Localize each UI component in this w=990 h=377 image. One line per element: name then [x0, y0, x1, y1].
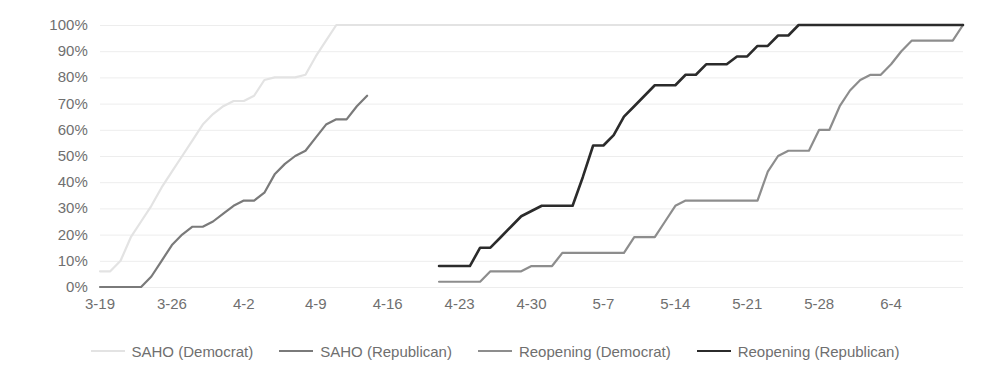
x-axis-tick-label: 5-7 [563, 295, 643, 312]
series-line [100, 96, 367, 287]
y-axis-tick-label: 70% [58, 95, 88, 112]
legend-item[interactable]: SAHO (Democrat) [91, 343, 254, 360]
legend-item[interactable]: Reopening (Democrat) [478, 343, 671, 360]
y-axis-tick-label: 10% [58, 252, 88, 269]
chart-plot-area [0, 0, 990, 377]
series-line [439, 25, 963, 266]
y-axis-tick-label: 60% [58, 121, 88, 138]
y-axis-tick-label: 80% [58, 68, 88, 85]
x-axis-tick-label: 5-14 [635, 295, 715, 312]
y-axis-tick-label: 90% [58, 42, 88, 59]
y-axis-tick-label: 20% [58, 226, 88, 243]
x-axis-tick-label: 6-4 [851, 295, 931, 312]
legend-line-swatch [279, 350, 313, 352]
chart-legend: SAHO (Democrat)SAHO (Republican)Reopenin… [0, 336, 990, 366]
legend-line-swatch [478, 350, 512, 352]
x-axis-tick-label: 4-23 [420, 295, 500, 312]
gridlines [100, 26, 963, 288]
series-line [100, 25, 963, 271]
legend-label: SAHO (Republican) [320, 343, 452, 360]
y-axis-tick-label: 50% [58, 147, 88, 164]
x-axis-tick-label: 4-9 [276, 295, 356, 312]
series-line [439, 25, 963, 282]
legend-label: Reopening (Democrat) [519, 343, 671, 360]
y-axis-tick-label: 0% [66, 278, 88, 295]
legend-item[interactable]: SAHO (Republican) [279, 343, 452, 360]
y-axis-tick-label: 30% [58, 199, 88, 216]
x-axis-tick-label: 3-26 [132, 295, 212, 312]
legend-line-swatch [697, 350, 731, 352]
x-axis-tick-label: 5-28 [779, 295, 859, 312]
x-axis-tick-label: 3-19 [60, 295, 140, 312]
legend-line-swatch [91, 350, 125, 352]
y-axis-tick-label: 100% [49, 16, 88, 33]
legend-label: SAHO (Democrat) [132, 343, 254, 360]
x-axis-tick-label: 4-30 [492, 295, 572, 312]
x-axis-tick-label: 5-21 [707, 295, 787, 312]
y-axis-tick-label: 40% [58, 173, 88, 190]
x-axis-tick-label: 4-16 [348, 295, 428, 312]
legend-item[interactable]: Reopening (Republican) [697, 343, 900, 360]
chart-container: 100%90%80%70%60%50%40%30%20%10%0% 3-193-… [0, 0, 990, 377]
legend-label: Reopening (Republican) [738, 343, 900, 360]
x-axis-tick-label: 4-2 [204, 295, 284, 312]
